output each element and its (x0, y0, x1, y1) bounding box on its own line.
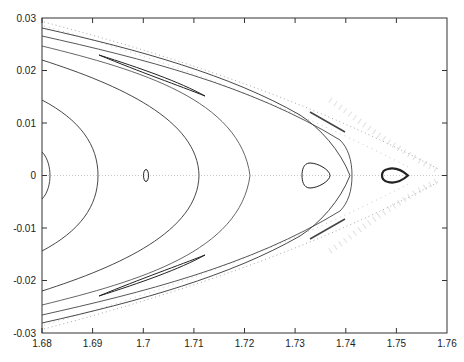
chaotic-layer (44, 22, 440, 329)
y-tick-label: 0.02 (17, 65, 37, 76)
y-tick-label: -0.02 (13, 275, 36, 286)
x-tick-label: 1.72 (235, 338, 255, 349)
y-tick-label: 0.03 (17, 13, 37, 24)
x-tick-labels: 1.68 1.69 1.7 1.71 1.72 1.73 1.74 1.75 1… (32, 338, 457, 349)
x-tick-label: 1.76 (437, 338, 457, 349)
y-tick-label: -0.03 (13, 328, 36, 339)
y-tick-label: 0 (30, 170, 36, 181)
y-tick-label: 0.01 (17, 118, 37, 129)
x-tick-label: 1.75 (387, 338, 407, 349)
y-tick-label: -0.01 (13, 223, 36, 234)
curve-6 (42, 36, 352, 176)
y-tick-labels: 0.03 0.02 0.01 0 -0.01 -0.02 -0.03 (13, 13, 36, 339)
islands (99, 55, 408, 296)
x-tick-label: 1.74 (336, 338, 356, 349)
x-tick-label: 1.68 (32, 338, 52, 349)
x-tick-label: 1.71 (184, 338, 204, 349)
x-tick-label: 1.69 (83, 338, 103, 349)
island-axis-3 (382, 169, 408, 183)
contour-chart: 1.68 1.69 1.7 1.71 1.72 1.73 1.74 1.75 1… (0, 0, 464, 362)
x-tick-label: 1.73 (285, 338, 305, 349)
x-tick-label: 1.7 (136, 338, 150, 349)
curve-6b (42, 176, 352, 316)
island-upper (99, 55, 205, 96)
curve-4 (42, 46, 250, 305)
contour-curves (42, 28, 352, 323)
island-lower (99, 255, 205, 296)
